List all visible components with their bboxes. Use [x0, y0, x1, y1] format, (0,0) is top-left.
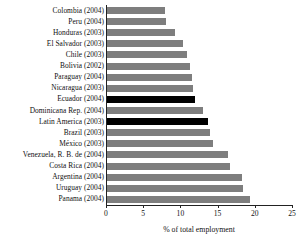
x-tick-mark [143, 205, 144, 208]
x-tick-mark [255, 205, 256, 208]
bar-row: Colombia (2004) [0, 5, 301, 16]
category-label: Peru (2004) [0, 18, 104, 26]
y-axis-line [106, 5, 107, 205]
bar [106, 174, 242, 181]
category-label: México (2003) [0, 140, 104, 148]
bar-row: Argentina (2004) [0, 172, 301, 183]
bar-chart: Colombia (2004)Peru (2004)Honduras (2003… [0, 0, 301, 244]
x-tick-label: 5 [128, 209, 158, 218]
bar-track [106, 105, 292, 116]
x-tick-mark [106, 205, 107, 208]
bar-track [106, 161, 292, 172]
x-tick-label: 10 [165, 209, 195, 218]
bar-row: Chile (2003) [0, 49, 301, 60]
bar-track [106, 183, 292, 194]
bar-track [106, 72, 292, 83]
bar-row: Peru (2004) [0, 16, 301, 27]
bar-row: México (2003) [0, 138, 301, 149]
category-label: Latin America (2003) [0, 118, 104, 126]
category-label: Panama (2004) [0, 195, 104, 203]
bar-row: Venezuela, R. B. de (2004) [0, 149, 301, 160]
bar [106, 151, 228, 158]
bar [106, 185, 243, 192]
bar [106, 140, 213, 147]
bar-track [106, 149, 292, 160]
category-label: Paraguay (2004) [0, 73, 104, 81]
bar [106, 74, 192, 81]
category-label: Argentina (2004) [0, 173, 104, 181]
bar-row: Honduras (2003) [0, 27, 301, 38]
bar [106, 29, 175, 36]
category-label: El Salvador (2003) [0, 40, 104, 48]
bar-row: El Salvador (2003) [0, 38, 301, 49]
bar-row: Bolivia (2002) [0, 61, 301, 72]
category-label: Ecuador (2004) [0, 95, 104, 103]
category-label: Chile (2003) [0, 51, 104, 59]
bar-track [106, 172, 292, 183]
category-label: Bolivia (2002) [0, 62, 104, 70]
bar-row: Brazil (2003) [0, 127, 301, 138]
bar-track [106, 138, 292, 149]
category-label: Costa Rica (2004) [0, 162, 104, 170]
x-tick-label: 0 [91, 209, 121, 218]
category-label: Honduras (2003) [0, 29, 104, 37]
category-label: Dominicana Rep. (2004) [0, 107, 104, 115]
x-axis-title: % of total employment [106, 225, 292, 235]
category-label: Venezuela, R. B. de (2004) [0, 151, 104, 159]
bar-row: Ecuador (2004) [0, 94, 301, 105]
x-tick-label: 25 [277, 209, 301, 218]
bar-row: Nicaragua (2003) [0, 83, 301, 94]
bar-track [106, 127, 292, 138]
bar-row: Costa Rica (2004) [0, 161, 301, 172]
chart-rows: Colombia (2004)Peru (2004)Honduras (2003… [0, 5, 301, 205]
bar-track [106, 116, 292, 127]
bar [106, 40, 183, 47]
bar-row: Panama (2004) [0, 194, 301, 205]
bar-track [106, 5, 292, 16]
bar-track [106, 38, 292, 49]
bar [106, 163, 230, 170]
bar [106, 129, 210, 136]
bar-row: Dominicana Rep. (2004) [0, 105, 301, 116]
category-label: Uruguay (2004) [0, 184, 104, 192]
category-label: Colombia (2004) [0, 7, 104, 15]
x-tick-mark [180, 205, 181, 208]
category-label: Nicaragua (2003) [0, 84, 104, 92]
bar [106, 63, 190, 70]
category-label: Brazil (2003) [0, 129, 104, 137]
x-axis-line [106, 205, 292, 206]
bar [106, 107, 203, 114]
bar-track [106, 16, 292, 27]
bar [106, 18, 166, 25]
bar-track [106, 49, 292, 60]
bar-track [106, 194, 292, 205]
bar [106, 196, 250, 203]
bar-highlighted [106, 96, 195, 103]
bar-row: Uruguay (2004) [0, 183, 301, 194]
x-tick-label: 20 [240, 209, 270, 218]
bar [106, 51, 187, 58]
x-tick-label: 15 [203, 209, 233, 218]
bar [106, 85, 193, 92]
bar [106, 7, 165, 14]
bar-track [106, 94, 292, 105]
bar-highlighted [106, 118, 208, 125]
bar-row: Paraguay (2004) [0, 72, 301, 83]
bar-track [106, 27, 292, 38]
x-tick-mark [292, 205, 293, 208]
bar-row: Latin America (2003) [0, 116, 301, 127]
bar-track [106, 61, 292, 72]
bar-track [106, 83, 292, 94]
x-tick-mark [218, 205, 219, 208]
